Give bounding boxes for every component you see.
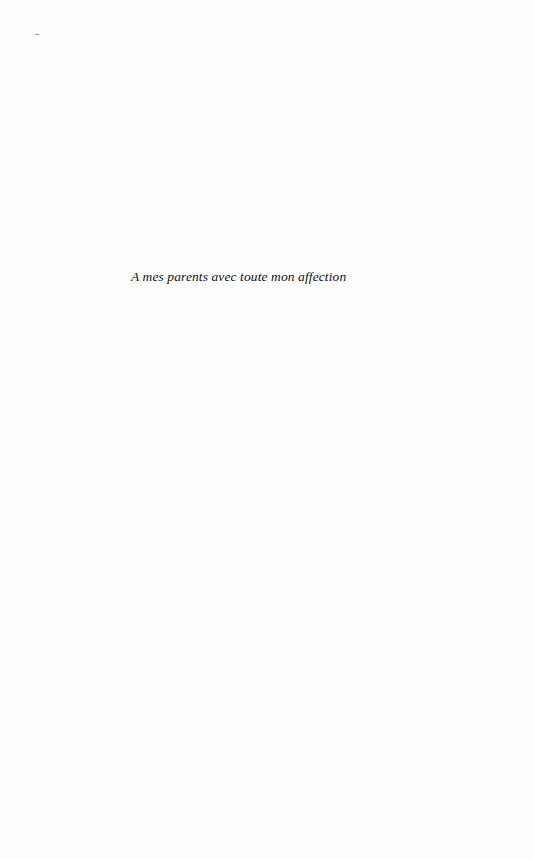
dedication-text: A mes parents avec toute mon affection [131, 269, 346, 285]
corner-mark [35, 34, 39, 35]
document-page: A mes parents avec toute mon affection [0, 0, 534, 859]
